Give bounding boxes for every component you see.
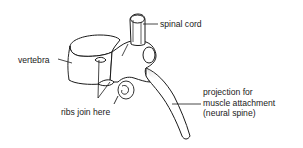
label-spinal-cord: spinal cord [160,19,202,29]
neural-spine [146,68,190,139]
vertebra-diagram: spinal cord vertebra ribs join here proj… [0,0,303,148]
lower-process [114,81,134,104]
label-projection-line2: muscle attachment [203,98,275,109]
label-projection-line3: (neural spine) [203,108,275,119]
vertebra-illustration [0,0,303,148]
label-projection: projection for muscle attachment (neural… [203,87,275,119]
label-projection-line1: projection for [203,87,275,98]
label-ribs-join-here: ribs join here [61,107,110,117]
label-vertebra: vertebra [18,55,50,65]
